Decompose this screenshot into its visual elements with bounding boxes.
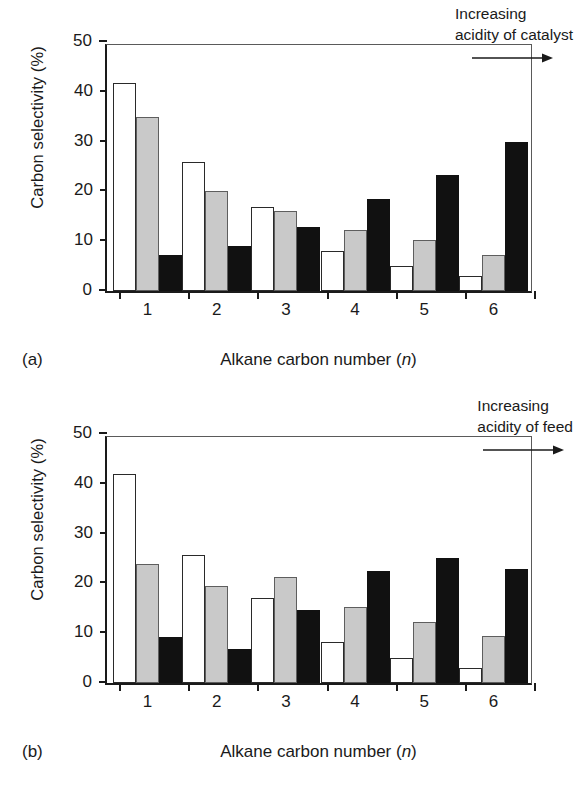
bar-black-c1	[159, 255, 182, 291]
annotation-b-line2: acidity of feed	[477, 417, 573, 438]
panel-tag-a: (a)	[22, 350, 43, 370]
x-axis-title-b-post: )	[411, 742, 417, 761]
annotation-b: Increasing acidity of feed	[477, 396, 573, 462]
y-axis-title: Carbon selectivity (%)	[28, 405, 47, 635]
bar-black-c4	[367, 199, 390, 291]
x-tick-label-4: 4	[335, 300, 375, 320]
x-tick-label-1: 1	[128, 692, 168, 712]
bar-black-c2	[228, 246, 251, 291]
bar-gray-c2	[205, 586, 228, 683]
x-tick-6	[465, 683, 467, 691]
y-tick-0: 0	[99, 681, 107, 683]
y-tick-label-50: 50	[73, 423, 92, 443]
y-tick-30: 30	[100, 532, 107, 534]
y-tick-label-0: 0	[83, 672, 92, 692]
bar-gray-c1	[136, 117, 159, 291]
bar-white-c6	[459, 276, 482, 291]
bar-white-c4	[321, 251, 344, 291]
y-tick-20: 20	[100, 581, 107, 583]
y-tick-40: 40	[100, 482, 107, 484]
x-axis-title-b-pre: Alkane carbon number (	[220, 742, 401, 761]
bar-gray-c4	[344, 607, 367, 683]
plot-area-a: 01020304050123456	[105, 44, 532, 293]
bar-white-c1	[113, 474, 136, 683]
bar-white-c4	[321, 642, 344, 683]
x-tick-label-2: 2	[197, 692, 237, 712]
bar-gray-c5	[413, 240, 436, 291]
y-axis-title: Carbon selectivity (%)	[28, 13, 47, 243]
x-tick-label-1: 1	[128, 300, 168, 320]
bar-black-c2	[228, 649, 251, 683]
bar-white-c6	[459, 668, 482, 683]
x-axis-title-a-post: )	[411, 350, 417, 369]
bar-gray-c4	[344, 230, 367, 291]
x-tick-label-4: 4	[335, 692, 375, 712]
x-tick-end	[534, 683, 536, 691]
y-tick-label-30: 30	[74, 131, 93, 151]
bar-black-c6	[505, 142, 528, 291]
bar-black-c3	[297, 227, 320, 291]
right-arrow-icon	[477, 441, 573, 462]
x-tick-4	[327, 291, 329, 299]
annotation-a-line2: acidity of catalyst	[455, 25, 573, 46]
y-tick-10: 10	[100, 239, 107, 241]
x-tick-5	[396, 683, 398, 691]
x-tick-label-2: 2	[197, 300, 237, 320]
x-tick-label-5: 5	[404, 692, 444, 712]
chart-panel-a: Carbon selectivity (%) 01020304050123456…	[0, 0, 583, 392]
x-tick-label-3: 3	[266, 300, 306, 320]
y-tick-label-0: 0	[83, 280, 92, 300]
bar-gray-c3	[274, 211, 297, 291]
bar-white-c5	[390, 658, 413, 683]
y-tick-label-40: 40	[74, 473, 93, 493]
bar-black-c6	[505, 569, 528, 683]
x-axis-title-b: Alkane carbon number (n)	[105, 742, 532, 762]
y-tick-label-20: 20	[74, 572, 93, 592]
annotation-b-line1: Increasing	[477, 396, 573, 417]
bar-gray-c6	[482, 636, 505, 683]
x-tick-3	[257, 291, 259, 299]
x-axis-title-a-pre: Alkane carbon number (	[220, 350, 401, 369]
bar-black-c5	[436, 175, 459, 291]
plot-area-b: 01020304050123456	[105, 436, 532, 685]
y-tick-50: 50	[99, 432, 107, 434]
y-tick-label-50: 50	[73, 31, 92, 51]
x-tick-5	[396, 291, 398, 299]
y-tick-30: 30	[100, 140, 107, 142]
bar-gray-c2	[205, 191, 228, 291]
bar-white-c3	[251, 207, 274, 291]
bar-gray-c1	[136, 564, 159, 683]
x-tick-2	[188, 683, 190, 691]
y-tick-40: 40	[100, 90, 107, 92]
y-tick-0: 0	[99, 289, 107, 291]
y-tick-50: 50	[99, 40, 107, 42]
panel-tag-b: (b)	[22, 742, 43, 762]
bar-white-c3	[251, 598, 274, 683]
x-tick-2	[188, 291, 190, 299]
y-tick-20: 20	[100, 189, 107, 191]
x-tick-1	[119, 683, 121, 691]
y-tick-label-10: 10	[74, 622, 93, 642]
x-tick-3	[257, 683, 259, 691]
x-tick-4	[327, 683, 329, 691]
annotation-a-line1: Increasing	[455, 4, 573, 25]
bar-gray-c5	[413, 622, 436, 683]
x-tick-label-3: 3	[266, 692, 306, 712]
x-axis-title-b-italic: n	[402, 742, 411, 761]
y-tick-label-30: 30	[74, 523, 93, 543]
bar-black-c3	[297, 610, 320, 683]
x-tick-label-5: 5	[404, 300, 444, 320]
chart-panel-b: Carbon selectivity (%) 01020304050123456…	[0, 392, 583, 784]
x-axis-title-a: Alkane carbon number (n)	[105, 350, 532, 370]
bar-white-c2	[182, 555, 205, 683]
y-tick-label-20: 20	[74, 180, 93, 200]
bar-black-c1	[159, 637, 182, 683]
y-tick-label-10: 10	[74, 230, 93, 250]
annotation-a: Increasing acidity of catalyst	[455, 4, 573, 70]
bar-white-c5	[390, 266, 413, 291]
x-tick-1	[119, 291, 121, 299]
y-tick-label-40: 40	[74, 81, 93, 101]
x-tick-6	[465, 291, 467, 299]
bar-gray-c6	[482, 255, 505, 291]
bar-gray-c3	[274, 577, 297, 683]
